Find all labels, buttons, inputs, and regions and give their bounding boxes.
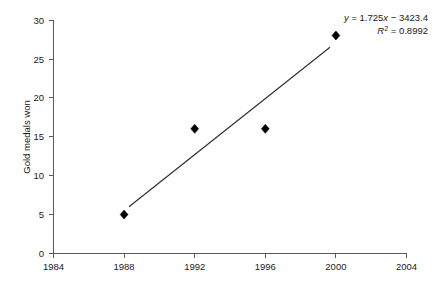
- equation-tail: − 3423.4: [388, 12, 428, 23]
- x-tick-label: 2004: [396, 261, 417, 272]
- data-point-marker[interactable]: [332, 31, 340, 40]
- data-points: [120, 31, 340, 219]
- trendline-equation-label: y = 1.725x − 3423.4: [343, 12, 428, 23]
- data-point-marker[interactable]: [261, 124, 269, 133]
- scatter-plot: Gold medals won 0 5 10 15 20 25 30: [0, 0, 434, 285]
- y-tick-label: 5: [39, 209, 44, 220]
- y-tick-marks: [49, 20, 54, 253]
- chart-container: Gold medals won 0 5 10 15 20 25 30: [0, 0, 434, 285]
- r2-value: = 0.8992: [388, 25, 428, 36]
- data-point-marker[interactable]: [120, 210, 128, 219]
- data-point-marker[interactable]: [191, 124, 199, 133]
- y-tick-label: 30: [33, 15, 44, 26]
- x-tick-labels: 1984 1988 1992 1996 2000 2004: [43, 261, 417, 272]
- equation-rest: = 1.725: [349, 12, 384, 23]
- y-tick-labels: 0 5 10 15 20 25 30: [33, 15, 44, 259]
- x-tick-label: 1992: [184, 261, 205, 272]
- trendline: [129, 47, 330, 207]
- x-tick-label: 1988: [114, 261, 135, 272]
- r-squared-label: R2 = 0.8992: [377, 25, 428, 37]
- y-tick-label: 20: [33, 92, 44, 103]
- y-tick-label: 15: [33, 131, 44, 142]
- x-tick-label: 2000: [325, 261, 346, 272]
- x-tick-label: 1984: [43, 261, 64, 272]
- y-axis-title: Gold medals won: [21, 100, 32, 173]
- x-tick-label: 1996: [255, 261, 276, 272]
- y-tick-label: 10: [33, 170, 44, 181]
- y-tick-label: 0: [39, 248, 44, 259]
- x-tick-marks: [54, 254, 407, 259]
- y-tick-label: 25: [33, 54, 44, 65]
